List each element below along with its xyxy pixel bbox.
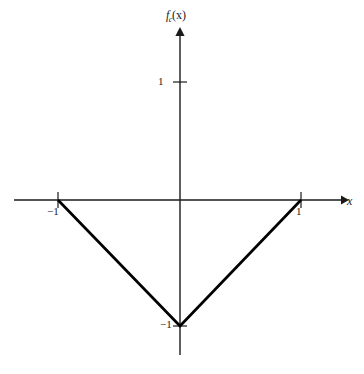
- tick-label-x-neg1: −1: [47, 206, 59, 217]
- y-axis-arrowhead: [175, 27, 184, 36]
- function-argument: (x): [172, 8, 186, 22]
- tick-label-y-neg1: −1: [160, 319, 172, 330]
- tick-label-x-1: 1: [296, 206, 302, 217]
- plot-canvas: [0, 0, 364, 374]
- tick-label-y-1: 1: [158, 76, 164, 87]
- x-axis-label: x: [347, 195, 352, 207]
- y-axis-function-label: fc(x): [166, 9, 186, 24]
- graph-figure: fc(x) x 1 −1 1 −1: [0, 0, 364, 374]
